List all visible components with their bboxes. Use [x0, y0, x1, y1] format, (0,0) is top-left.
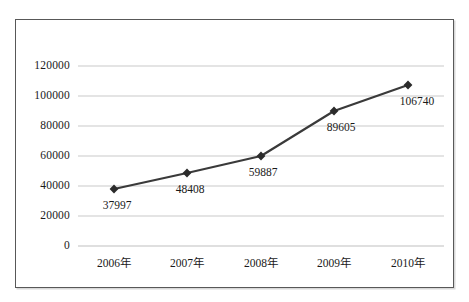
xtick-label-2010: 2010年: [378, 258, 438, 270]
ytick-label-40000: 40000: [24, 180, 70, 192]
ytick-label-80000: 80000: [24, 120, 70, 132]
ytick-label-100000: 100000: [24, 90, 70, 102]
xtick-label-2008: 2008年: [231, 258, 291, 270]
data-label-2007: 48408: [161, 184, 219, 196]
xtick-label-2006: 2006年: [84, 258, 144, 270]
chart-figure: 120000 100000 80000 60000 40000 20000 0 …: [0, 0, 469, 302]
xtick-label-2009: 2009年: [304, 258, 364, 270]
ytick-label-0: 0: [24, 240, 70, 252]
data-label-2006: 37997: [88, 200, 146, 212]
data-label-2009: 89605: [312, 122, 370, 134]
ytick-label-20000: 20000: [24, 210, 70, 222]
data-label-2008: 59887: [234, 167, 292, 179]
data-label-2010: 106740: [386, 96, 448, 108]
ytick-label-60000: 60000: [24, 150, 70, 162]
chart-frame-border: [15, 19, 454, 288]
ytick-label-120000: 120000: [24, 60, 70, 72]
xtick-label-2007: 2007年: [157, 258, 217, 270]
